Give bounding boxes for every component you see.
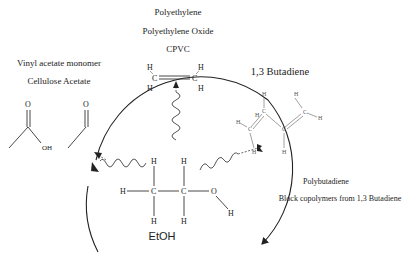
- acetaldehyde-molecule: O: [68, 100, 89, 148]
- left-product-labels: Vinyl acetate monomer Cellulose Acetate: [17, 58, 101, 86]
- cycle-arc-right: [262, 100, 293, 244]
- atom-c: C: [303, 109, 307, 115]
- ethanol-molecule: H H H C C O H H H EtOH: [120, 157, 234, 242]
- ethylene-molecule: H H C C H H: [147, 63, 204, 93]
- label-polyethylene-oxide: Polyethylene Oxide: [142, 26, 213, 36]
- atom-h: H: [151, 217, 157, 226]
- label-vinyl-acetate-monomer: Vinyl acetate monomer: [17, 58, 101, 68]
- atom-h: H: [147, 84, 153, 93]
- atom-h: H: [262, 91, 267, 97]
- cycle-arrowhead-left: [91, 162, 99, 172]
- right-product-labels: Polybutadiene Block copolymers from 1,3 …: [279, 177, 402, 203]
- atom-h: H: [198, 84, 204, 93]
- atom-oh: OH: [42, 144, 52, 152]
- atom-h: H: [318, 115, 323, 121]
- atom-h: H: [147, 63, 153, 72]
- atom-c: C: [151, 187, 156, 196]
- atom-c: C: [181, 187, 186, 196]
- top-product-labels: Polyethylene Polyethylene Oxide CPVC: [142, 7, 213, 54]
- cycle-arc-left-lower: [86, 186, 98, 252]
- butadiene-molecule: H H H C C H C C H H H: [236, 91, 323, 155]
- atom-o: O: [211, 187, 217, 196]
- atom-h: H: [294, 91, 299, 97]
- atom-h: H: [282, 149, 287, 155]
- atom-h: H: [181, 157, 187, 166]
- wavy-arrow-to-butadiene: [200, 144, 263, 170]
- atom-c: C: [152, 74, 157, 83]
- wavy-arrow-to-acetaldehyde: [94, 152, 146, 167]
- reaction-cycle: [86, 77, 292, 252]
- label-block-copolymers: Block copolymers from 1,3 Butadiene: [279, 194, 402, 203]
- atom-h: H: [228, 209, 234, 218]
- label-cellulose-acetate: Cellulose Acetate: [27, 76, 90, 86]
- atom-h: H: [151, 157, 157, 166]
- label-1-3-butadiene: 1,3 Butadiene: [251, 66, 310, 77]
- atom-h: H: [181, 217, 187, 226]
- atom-c: C: [262, 108, 266, 114]
- wavy-arrow-to-ethylene: [172, 81, 180, 140]
- label-polybutadiene: Polybutadiene: [303, 177, 349, 186]
- atom-h: H: [198, 63, 204, 72]
- ethanol-label: EtOH: [149, 230, 176, 242]
- atom-o: O: [83, 100, 89, 109]
- atom-o: O: [25, 100, 31, 109]
- atom-c: C: [192, 74, 197, 83]
- atom-h: H: [120, 187, 126, 196]
- acetic-acid-molecule: O OH: [9, 100, 52, 152]
- label-cpvc: CPVC: [166, 44, 190, 54]
- cycle-arc-top: [96, 77, 268, 160]
- atom-h: H: [236, 119, 241, 125]
- label-polyethylene: Polyethylene: [155, 7, 202, 17]
- ethanol-conversion-diagram: Polyethylene Polyethylene Oxide CPVC Vin…: [0, 0, 414, 262]
